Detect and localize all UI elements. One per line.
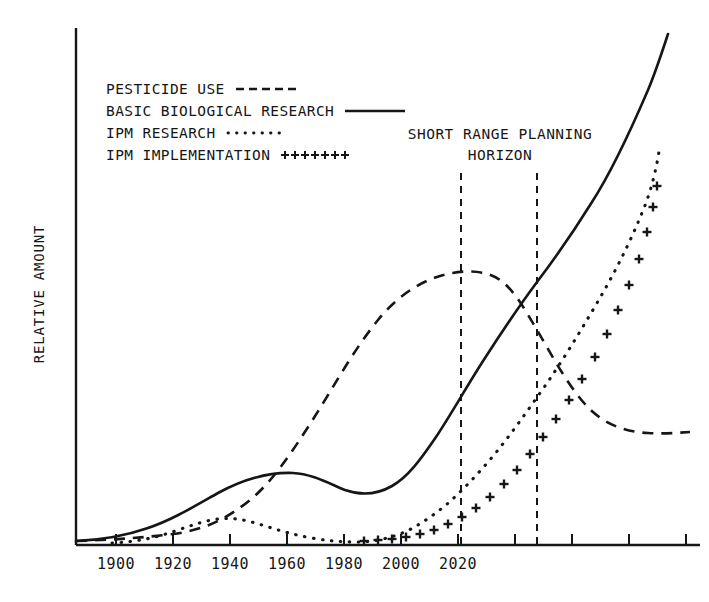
planning-horizon-markers xyxy=(461,173,537,545)
legend-label-pesticide-use: PESTICIDE USE xyxy=(106,81,225,97)
x-tick-label-1900: 1900 xyxy=(86,555,146,573)
legend-label-ipm-implementation: IPM IMPLEMENTATION xyxy=(106,147,270,163)
series-ipm-implementation xyxy=(360,182,662,546)
legend-swatch-dotted xyxy=(225,126,303,140)
series-pesticide-use xyxy=(76,271,690,541)
chart-figure: PESTICIDE USE BASIC BIOLOGICAL RESEARCH … xyxy=(0,0,709,602)
x-tick-label-2000: 2000 xyxy=(371,555,431,573)
legend-item-pesticide-use: PESTICIDE USE xyxy=(106,78,446,100)
legend-swatch-dashed xyxy=(234,82,312,96)
legend-label-ipm-research: IPM RESEARCH xyxy=(106,125,216,141)
legend-item-basic-biological-research: BASIC BIOLOGICAL RESEARCH xyxy=(106,100,446,122)
x-tick-label-1980: 1980 xyxy=(314,555,374,573)
x-axis-ticks xyxy=(116,534,686,545)
x-tick-label-1920: 1920 xyxy=(143,555,203,573)
annotation-line-2: HORIZON xyxy=(400,145,600,166)
series-ipm-research xyxy=(112,145,660,543)
y-axis-label: RELATIVE AMOUNT xyxy=(31,214,47,374)
legend-item-ipm-research: IPM RESEARCH xyxy=(106,122,446,144)
x-tick-label-2020: 2020 xyxy=(428,555,488,573)
legend-label-basic-biological-research: BASIC BIOLOGICAL RESEARCH xyxy=(106,103,334,119)
legend-item-ipm-implementation: IPM IMPLEMENTATION xyxy=(106,144,446,166)
legend-swatch-plus-markers xyxy=(279,148,357,162)
legend-swatch-solid xyxy=(343,104,421,118)
x-tick-label-1940: 1940 xyxy=(200,555,260,573)
chart-legend: PESTICIDE USE BASIC BIOLOGICAL RESEARCH … xyxy=(106,78,446,166)
x-tick-label-1960: 1960 xyxy=(257,555,317,573)
planning-horizon-annotation: SHORT RANGE PLANNING HORIZON xyxy=(400,124,600,166)
annotation-line-1: SHORT RANGE PLANNING xyxy=(400,124,600,145)
